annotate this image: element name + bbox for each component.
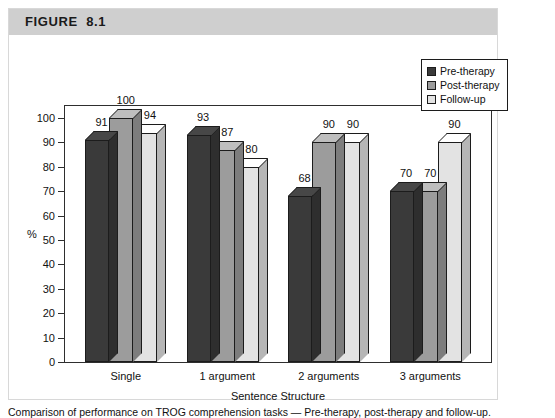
bar-front-face bbox=[187, 135, 211, 362]
bars-layer bbox=[65, 106, 491, 362]
legend-item: Post-therapy bbox=[427, 78, 500, 92]
bar-front-face bbox=[288, 196, 312, 362]
y-axis-tick-label: 60 bbox=[29, 210, 55, 222]
bar-side-face bbox=[133, 109, 142, 362]
bar-column bbox=[85, 131, 109, 362]
legend-item-label: Follow-up bbox=[440, 94, 486, 105]
legend-swatch-icon bbox=[427, 95, 436, 104]
bar-side-face bbox=[360, 133, 369, 362]
bar-side-face bbox=[235, 141, 244, 362]
x-axis-category-label: 2 arguments bbox=[298, 370, 359, 382]
figure-caption: Comparison of performance on TROG compre… bbox=[8, 406, 548, 418]
y-axis-tick-label: 70 bbox=[29, 185, 55, 197]
bar-side-face bbox=[259, 158, 268, 362]
bar-side-face bbox=[438, 182, 447, 362]
x-axis-category-label: 1 argument bbox=[199, 370, 255, 382]
y-axis-tick-label: 30 bbox=[29, 283, 55, 295]
y-axis-labels: 0102030405060708090100 bbox=[9, 9, 55, 401]
bar-side-face bbox=[336, 133, 345, 362]
y-axis-tick-label: 20 bbox=[29, 307, 55, 319]
bar-column bbox=[288, 187, 312, 362]
bar-side-face bbox=[462, 133, 471, 362]
y-axis-tick-label: 0 bbox=[29, 356, 55, 368]
figure-card: FIGURE 8.1 0102030405060708090100 % 9410… bbox=[8, 8, 498, 400]
figure-header-bar: FIGURE 8.1 bbox=[9, 9, 497, 35]
legend-swatch-icon bbox=[427, 81, 436, 90]
bar-column bbox=[187, 126, 211, 362]
y-axis-tick-label: 10 bbox=[29, 332, 55, 344]
y-axis-tick-label: 80 bbox=[29, 161, 55, 173]
y-axis-tick-label: 90 bbox=[29, 136, 55, 148]
x-axis-title: Sentence Structure bbox=[231, 390, 325, 402]
legend-swatch-icon bbox=[427, 67, 436, 76]
bar-side-face bbox=[414, 182, 423, 362]
y-axis-tick-label: 100 bbox=[29, 112, 55, 124]
y-axis-title: % bbox=[27, 228, 37, 240]
chart-legend: Pre-therapyPost-therapyFollow-up bbox=[421, 59, 508, 111]
y-axis-tick-label: 40 bbox=[29, 258, 55, 270]
bar-side-face bbox=[109, 131, 118, 362]
bar-side-face bbox=[211, 126, 220, 362]
bar-side-face bbox=[157, 124, 166, 362]
x-axis-category-label: 3 arguments bbox=[400, 370, 461, 382]
bar-side-face bbox=[312, 187, 321, 362]
legend-item: Pre-therapy bbox=[427, 64, 500, 78]
legend-item-label: Post-therapy bbox=[440, 80, 500, 91]
x-axis-category-label: Single bbox=[110, 370, 141, 382]
bar-front-face bbox=[390, 191, 414, 362]
legend-item: Follow-up bbox=[427, 92, 500, 106]
bar-front-face bbox=[85, 140, 109, 362]
legend-item-label: Pre-therapy bbox=[440, 66, 495, 77]
bar-column bbox=[390, 182, 414, 362]
